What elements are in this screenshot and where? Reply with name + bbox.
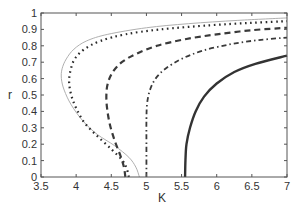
y-tick-label: 0.2 [22, 138, 37, 150]
plot-frame [41, 13, 287, 177]
x-axis-label: K [158, 191, 166, 205]
y-tick-label: 0.9 [22, 23, 37, 35]
y-tick-label: 0.6 [22, 73, 37, 85]
y-tick-label: 0.4 [22, 105, 37, 117]
y-tick-label: 0.8 [22, 40, 37, 52]
y-tick-label: 1 [31, 7, 37, 19]
x-tick-label: 5.5 [174, 180, 189, 192]
series-dash-dot [146, 38, 287, 177]
y-tick-label: 0.3 [22, 122, 37, 134]
series-thin-gray [61, 18, 287, 177]
x-tick-label: 4.5 [104, 180, 119, 192]
y-tick-label: 0 [31, 171, 37, 183]
y-axis-label: r [8, 88, 12, 102]
x-tick-label: 5 [143, 180, 149, 192]
series-dashed [106, 28, 287, 177]
x-tick-label: 4 [73, 180, 79, 192]
series-dotted [69, 21, 287, 177]
y-tick-labels: 00.10.20.30.40.50.60.70.80.91 [22, 7, 37, 183]
x-tick-label: 6 [214, 180, 220, 192]
y-tick-label: 0.7 [22, 56, 37, 68]
plot-series [61, 18, 287, 177]
series-solid-thick [185, 56, 287, 177]
x-tick-label: 6.5 [244, 180, 259, 192]
x-tick-label: 7 [284, 180, 290, 192]
y-tick-label: 0.1 [22, 155, 37, 167]
axis-ticks [41, 13, 287, 177]
line-chart: 3.544.555.566.57 00.10.20.30.40.50.60.70… [0, 0, 307, 207]
y-tick-label: 0.5 [22, 89, 37, 101]
